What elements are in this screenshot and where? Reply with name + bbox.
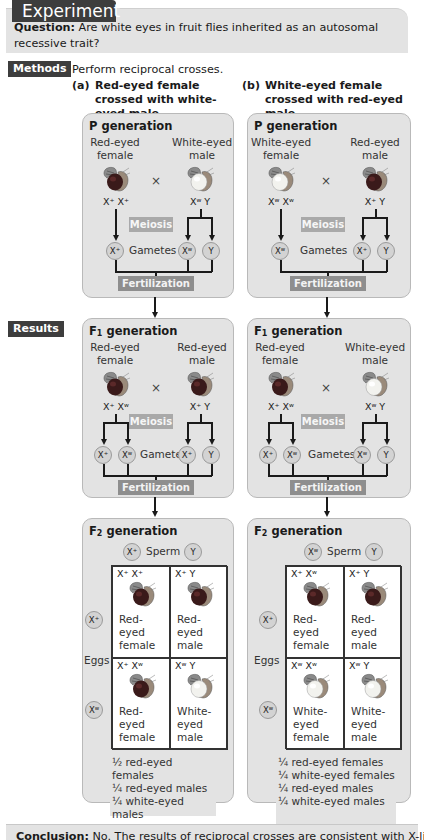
question-label: Question: xyxy=(14,21,75,34)
punnett-cell: X⁺ Xʷ Red-eyedfemale xyxy=(286,566,344,658)
p-female-genotype: X⁺ X⁺ xyxy=(96,196,136,207)
sperm-label: Sperm xyxy=(327,545,361,557)
title-rest: generation xyxy=(102,324,177,338)
punnett-cell: X⁺ X⁺ Red-eyedfemale xyxy=(112,566,170,658)
gamete-x-w: Xʷ xyxy=(353,446,371,464)
white-eyed-fly-icon xyxy=(301,673,331,701)
cross-b-heading: (b) White-eyed female crossed with red-e… xyxy=(242,79,422,109)
cross-a-heading: (a) Red-eyed female crossed with white-e… xyxy=(72,79,242,109)
red-eyed-fly-icon xyxy=(359,581,389,609)
title-f: F xyxy=(89,524,97,538)
white-eyed-fly-icon xyxy=(359,673,389,701)
cell-genotype: X⁺ Y xyxy=(175,568,195,579)
cross-a-f2-ratios: ½ red-eyed females ¼ red-eyed males ¼ wh… xyxy=(110,754,216,816)
p-male-label: Red-eyed male xyxy=(340,136,410,162)
cross-b-label: (b) xyxy=(242,79,260,93)
experiment-title: Experiment xyxy=(12,0,116,22)
cross-symbol: × xyxy=(151,381,161,395)
f1-male-label: Red-eyed male xyxy=(167,341,237,367)
results-badge: Results xyxy=(8,321,64,337)
panel-title: F2 generation xyxy=(254,524,342,538)
meiosis-label: Meiosis xyxy=(129,217,173,232)
sperm-gamete: X⁺ xyxy=(123,543,141,561)
panel-title: P generation xyxy=(89,119,172,133)
cell-phenotype: Red-eyedfemale xyxy=(119,705,155,744)
egg-gamete: Xʷ xyxy=(85,701,103,719)
gamete-y: Y xyxy=(377,446,395,464)
gamete-x-plus: X⁺ xyxy=(259,446,277,464)
gamete-y: Y xyxy=(202,446,220,464)
white-eyed-fly-icon xyxy=(360,371,390,399)
title-rest: generation xyxy=(102,524,177,538)
red-eyed-fly-icon xyxy=(301,581,331,609)
f1-female-genotype: X⁺ Xʷ xyxy=(96,401,136,412)
punnett-cell: Xʷ Y White-eyedmale xyxy=(170,658,228,750)
cross-a-p-generation-panel: P generation Red-eyed female White-eyed … xyxy=(82,113,234,298)
fertilization-label: Fertilization xyxy=(290,480,366,495)
title-f: F xyxy=(254,324,262,338)
ratio-line: ¼ red-eyed females xyxy=(278,756,396,769)
cross-symbol: × xyxy=(151,174,161,188)
punnett-square: X⁺ Xʷ Red-eyedfemale X⁺ Y Red-eyedmale X… xyxy=(285,565,401,749)
gametes-label: Gametes xyxy=(308,448,355,460)
cross-b-p-generation-panel: P generation White-eyed female Red-eyed … xyxy=(247,113,411,298)
gamete-y: Y xyxy=(377,242,395,260)
cross-a-f1-generation-panel: F1 generation Red-eyed female Red-eyed m… xyxy=(82,318,234,498)
conclusion-label: Conclusion: xyxy=(16,830,89,840)
sperm-gamete: Xʷ xyxy=(304,543,322,561)
gamete-x-plus: X⁺ xyxy=(353,242,371,260)
cell-genotype: X⁺ Xʷ xyxy=(291,568,317,579)
gamete-y: Y xyxy=(202,242,220,260)
cell-genotype: X⁺ X⁺ xyxy=(117,568,143,579)
ratio-line: ¼ white-eyed males xyxy=(278,795,396,808)
red-eyed-fly-icon xyxy=(101,166,131,194)
p-female-label: White-eyed female xyxy=(246,136,316,162)
ratio-line: ½ red-eyed females xyxy=(112,756,216,782)
punnett-cell: X⁺ Xʷ Red-eyedfemale xyxy=(112,658,170,750)
gamete-x-w: Xʷ xyxy=(178,242,196,260)
white-eyed-fly-icon xyxy=(185,166,215,194)
ratio-line: ¼ red-eyed males xyxy=(278,782,396,795)
gamete-x-w: Xʷ xyxy=(283,446,301,464)
punnett-cell: Xʷ Y White-eyedmale xyxy=(344,658,402,750)
cell-phenotype: Red-eyedfemale xyxy=(119,613,155,652)
f1-male-label: White-eyed male xyxy=(340,341,410,367)
cross-a-label: (a) xyxy=(72,79,89,93)
cell-genotype: Xʷ Xʷ xyxy=(291,660,317,671)
f1-female-genotype: X⁺ Xʷ xyxy=(261,401,301,412)
cell-phenotype: White-eyedmale xyxy=(351,705,385,744)
egg-gamete: X⁺ xyxy=(259,611,277,629)
ratio-line: ¼ white-eyed females xyxy=(278,769,396,782)
f1-male-genotype: X⁺ Y xyxy=(180,401,220,412)
meiosis-label: Meiosis xyxy=(301,217,345,232)
white-eyed-fly-icon xyxy=(266,166,296,194)
cell-genotype: X⁺ Y xyxy=(349,568,369,579)
cell-phenotype: White-eyedfemale xyxy=(293,705,329,744)
p-female-genotype: Xʷ Xʷ xyxy=(261,196,301,207)
cross-symbol: × xyxy=(321,381,331,395)
punnett-cell: X⁺ Y Red-eyedmale xyxy=(344,566,402,658)
title-f: F xyxy=(89,324,97,338)
gamete-x-plus: X⁺ xyxy=(106,242,124,260)
conclusion-text: No. The results of reciprocal crosses ar… xyxy=(92,830,424,840)
fertilization-label: Fertilization xyxy=(118,480,194,495)
red-eyed-fly-icon xyxy=(185,581,215,609)
egg-gamete: X⁺ xyxy=(85,611,103,629)
methods-text: Perform reciprocal crosses. xyxy=(72,63,223,76)
cell-genotype: X⁺ Xʷ xyxy=(117,660,143,671)
title-rest: generation xyxy=(267,524,342,538)
f1-female-label: Red-eyed female xyxy=(245,341,315,367)
gametes-label: Gametes xyxy=(300,244,347,256)
cross-b-f2-ratios: ¼ red-eyed females ¼ white-eyed females … xyxy=(276,754,396,826)
gamete-x-w: Xʷ xyxy=(118,446,136,464)
meiosis-label: Meiosis xyxy=(129,414,173,429)
panel-title: F2 generation xyxy=(89,524,177,538)
cell-phenotype: Red-eyedfemale xyxy=(293,613,329,652)
cross-b-f1-generation-panel: F1 generation Red-eyed female White-eyed… xyxy=(247,318,411,498)
p-female-label: Red-eyed female xyxy=(80,136,150,162)
methods-badge: Methods xyxy=(8,61,71,77)
ratio-line: ¼ red-eyed males xyxy=(112,782,216,795)
sperm-gamete: Y xyxy=(184,543,202,561)
sperm-gamete: Y xyxy=(365,543,383,561)
gamete-x-plus: X⁺ xyxy=(94,446,112,464)
